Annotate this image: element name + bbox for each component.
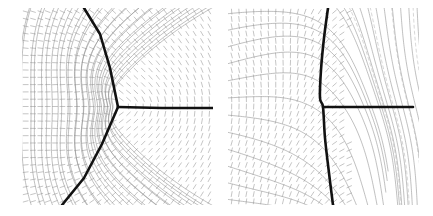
director-tick <box>325 200 328 204</box>
director-tick <box>156 141 159 145</box>
director-tick <box>268 53 269 58</box>
director-tick <box>180 111 181 116</box>
director-tick <box>134 141 138 145</box>
director-tick <box>164 46 167 50</box>
director-tick <box>105 192 109 195</box>
director-tick <box>304 156 307 160</box>
director-tick <box>82 164 87 166</box>
director-tick <box>171 141 174 145</box>
director-tick <box>142 97 144 102</box>
director-tick <box>260 133 261 138</box>
director-tick <box>297 46 298 51</box>
director-tick <box>332 149 336 152</box>
director-tick <box>304 163 307 167</box>
director-tick <box>231 68 232 73</box>
director-tick <box>304 119 306 123</box>
director-tick <box>23 48 28 49</box>
director-tick <box>246 141 247 146</box>
director-tick <box>186 155 189 159</box>
director-tick <box>347 142 352 144</box>
director-tick <box>67 33 72 35</box>
director-tick <box>134 76 138 79</box>
director-tick <box>347 157 352 159</box>
director-tick <box>89 62 94 63</box>
director-tick <box>246 155 248 160</box>
director-tick <box>141 141 145 145</box>
director-tick <box>246 177 247 182</box>
director-tick <box>231 141 232 146</box>
director-tick <box>179 68 182 72</box>
director-tick <box>297 163 300 167</box>
director-tick <box>164 75 167 79</box>
director-tick <box>67 25 72 27</box>
director-tick <box>246 82 247 87</box>
director-tick <box>112 47 116 50</box>
director-tick <box>67 48 72 49</box>
director-tick <box>268 46 269 51</box>
director-tick <box>318 17 321 21</box>
director-tick <box>304 112 306 117</box>
director-tick <box>297 53 298 58</box>
director-tick <box>164 10 167 14</box>
director-tick <box>238 31 239 36</box>
director-tick <box>112 171 116 174</box>
director-tick <box>53 200 58 202</box>
director-tick <box>246 184 247 189</box>
director-tick <box>268 141 270 146</box>
director-tick <box>326 32 329 36</box>
director-tick <box>60 172 65 173</box>
director-tick <box>246 119 247 124</box>
director-tick <box>311 177 314 181</box>
director-tick <box>276 60 277 65</box>
director-tick <box>311 68 313 73</box>
director-tick <box>89 99 94 100</box>
director-tick <box>119 120 123 123</box>
director-tick <box>127 200 130 204</box>
director-tick <box>311 141 314 145</box>
director-tick <box>239 82 240 87</box>
director-tick <box>297 111 299 116</box>
director-tick <box>38 165 43 166</box>
director-tick <box>23 201 28 202</box>
director-tick <box>186 133 188 138</box>
director-tick <box>149 54 152 58</box>
director-tick <box>208 163 210 167</box>
director-tick <box>23 33 28 34</box>
director-tick <box>260 184 261 189</box>
director-tick <box>318 178 321 182</box>
director-tick <box>179 75 181 79</box>
director-tick <box>193 170 196 174</box>
director-tick <box>127 120 131 123</box>
director-tick <box>157 90 159 94</box>
director-tick <box>311 156 314 160</box>
director-tick <box>171 156 174 160</box>
director-tick <box>311 112 314 116</box>
director-tick <box>187 89 188 94</box>
director-tick <box>340 149 344 151</box>
director-tick <box>282 126 284 131</box>
director-tick <box>260 177 262 182</box>
director-tick <box>164 148 167 152</box>
director-tick <box>119 185 123 189</box>
director-tick <box>304 141 307 145</box>
director-tick <box>340 164 344 166</box>
director-tick <box>38 48 43 49</box>
director-tick <box>149 148 152 152</box>
director-tick <box>275 192 276 197</box>
director-tick <box>141 127 144 131</box>
director-tick <box>261 199 262 204</box>
director-tick <box>186 46 189 50</box>
director-tick <box>253 133 254 138</box>
director-tick <box>75 179 80 181</box>
director-tick <box>319 39 322 43</box>
director-tick <box>282 199 283 204</box>
director-tick <box>326 75 329 79</box>
director-tick <box>231 155 233 160</box>
director-tick <box>193 163 196 167</box>
director-tick <box>318 104 321 108</box>
director-tick <box>246 60 247 65</box>
director-tick <box>186 170 189 174</box>
director-tick <box>201 46 203 50</box>
director-tick <box>90 185 94 188</box>
director-tick <box>253 111 254 116</box>
